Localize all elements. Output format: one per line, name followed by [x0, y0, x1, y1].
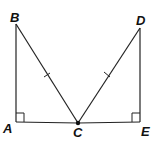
segment-bc [16, 24, 78, 123]
geometry-diagram: B A C D E [0, 0, 156, 142]
label-d: D [136, 13, 146, 28]
segment-cd [78, 28, 140, 123]
right-angle-e [132, 113, 140, 122]
label-b: B [10, 10, 19, 25]
segment-ac [16, 122, 78, 123]
segment-ce [78, 122, 140, 123]
label-e: E [141, 124, 150, 139]
label-a: A [2, 121, 12, 136]
label-c: C [73, 125, 83, 140]
right-angle-a [16, 113, 24, 122]
